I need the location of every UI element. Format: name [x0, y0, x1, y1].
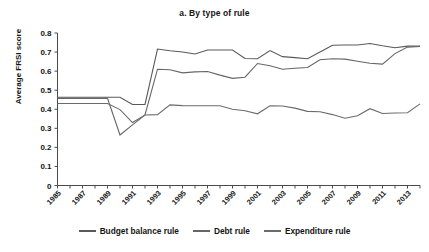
y-tick-label: 0.2	[40, 143, 52, 152]
y-tick-label: 0.4	[40, 105, 52, 114]
series-line-debt-rule	[58, 47, 421, 135]
legend-item-debt-rule[interactable]: Debt rule	[193, 226, 250, 236]
legend-line-swatch	[193, 230, 210, 232]
legend-item-budget-balance-rule[interactable]: Budget balance rule	[79, 226, 179, 236]
x-tick-label: 1997	[195, 189, 213, 207]
x-tick-label: 1991	[120, 189, 138, 207]
legend-item-label: Debt rule	[214, 226, 250, 236]
y-tick-label: 0.5	[40, 86, 52, 95]
y-tick-label: 0	[47, 182, 52, 191]
x-tick-label: 2005	[295, 189, 313, 207]
legend-line-swatch	[79, 230, 96, 232]
x-tick-label: 2013	[395, 189, 413, 207]
chart-figure: a. By type of rule Average FRSI score 0.…	[0, 0, 429, 252]
x-tick-label: 2001	[245, 189, 263, 207]
data-series-group	[58, 43, 421, 135]
x-tick-label: 2009	[345, 189, 363, 207]
y-tick-label: 0.7	[40, 48, 52, 57]
series-line-expenditure-rule	[58, 104, 421, 123]
x-tick-label: 1999	[220, 189, 238, 207]
x-tick-label: 1995	[170, 189, 188, 207]
y-axis-ticks: 0.80.70.60.50.40.30.20.10	[40, 29, 57, 191]
x-tick-label: 2011	[370, 189, 388, 207]
x-tick-label: 1985	[45, 189, 63, 207]
y-tick-label: 0.8	[40, 29, 52, 38]
x-axis-tick-labels: 1985198719891991199319951997199920012003…	[45, 189, 413, 207]
legend-line-swatch	[264, 230, 281, 232]
x-tick-label: 2003	[270, 189, 288, 207]
y-tick-label: 0.6	[40, 67, 52, 76]
x-tick-label: 1987	[70, 189, 88, 207]
legend-item-label: Expenditure rule	[285, 226, 350, 236]
chart-legend: Budget balance ruleDebt ruleExpenditure …	[0, 226, 429, 236]
series-line-budget-balance-rule	[58, 43, 421, 104]
x-tick-label: 1993	[145, 189, 163, 207]
y-tick-label: 0.1	[40, 162, 52, 171]
y-tick-label: 0.3	[40, 124, 52, 133]
legend-item-expenditure-rule[interactable]: Expenditure rule	[264, 226, 350, 236]
x-tick-label: 2007	[320, 189, 338, 207]
x-tick-label: 1989	[95, 189, 113, 207]
chart-plot-area: 0.80.70.60.50.40.30.20.10 19851987198919…	[0, 0, 429, 252]
legend-item-label: Budget balance rule	[100, 226, 179, 236]
